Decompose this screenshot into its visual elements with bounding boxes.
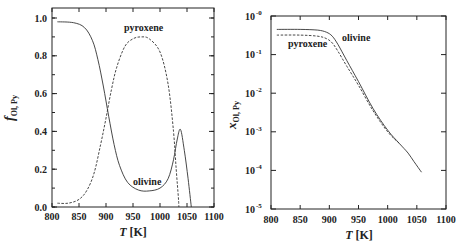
x-tick-label: 800 (264, 214, 279, 225)
x-tick-label: 1100 (436, 214, 455, 225)
x-tick-label: 1100 (204, 211, 223, 222)
right-olivine-label: olivine (342, 32, 371, 43)
olivine-line (57, 22, 191, 207)
right-series (277, 29, 422, 172)
x-tick-label: 950 (126, 211, 141, 222)
right-chart: 80085090095010001050110010-010-110-210-3… (224, 9, 456, 242)
left-y-axis-label: fOl, Py (2, 95, 19, 121)
right-x-axis-label: T [K] (345, 228, 373, 242)
y-tick-label: 10 (245, 88, 255, 99)
left-olivine-label: olivine (133, 176, 162, 187)
y-tick-label: 10 (245, 165, 255, 176)
y-tick-label: 0.0 (35, 202, 48, 213)
figure: 8008509009501000105011000.00.20.40.60.81… (0, 0, 464, 248)
y-tick-label: 1.0 (35, 13, 48, 24)
y-tick-label: 0.6 (35, 88, 48, 99)
y-tick-exponent: -1 (256, 48, 262, 56)
x-tick-label: 950 (351, 214, 366, 225)
pyroxene-line (277, 35, 400, 143)
y-tick-exponent: -3 (256, 125, 262, 133)
y-tick-exponent: -0 (256, 9, 262, 17)
right-y-axis-label: xOl, Py (224, 101, 241, 130)
x-tick-label: 1050 (407, 214, 427, 225)
x-tick-label: 850 (72, 211, 87, 222)
left-x-axis-label: T [K] (119, 225, 147, 239)
y-tick-label: 10 (245, 49, 255, 60)
y-tick-label: 0.8 (35, 50, 48, 61)
x-tick-label: 850 (293, 214, 308, 225)
x-tick-label: 900 (322, 214, 337, 225)
y-tick-label: 10 (245, 204, 255, 215)
x-tick-label: 800 (45, 211, 60, 222)
left-chart: 8008509009501000105011000.00.20.40.60.81… (2, 8, 224, 239)
y-tick-label: 10 (245, 11, 255, 22)
y-tick-label: 0.2 (35, 164, 48, 175)
y-tick-label: 10 (245, 126, 255, 137)
x-tick-label: 900 (99, 211, 114, 222)
x-tick-label: 1000 (378, 214, 398, 225)
y-tick-exponent: -2 (256, 86, 262, 94)
left-series (57, 22, 191, 207)
y-tick-exponent: -4 (256, 163, 262, 171)
x-tick-label: 1000 (150, 211, 170, 222)
left-pyroxene-label: pyroxene (124, 22, 164, 33)
x-tick-label: 1050 (177, 211, 197, 222)
y-tick-label: 0.4 (35, 126, 48, 137)
y-tick-exponent: -5 (256, 202, 262, 210)
left-axis-ticks: 8008509009501000105011000.00.20.40.60.81… (35, 8, 224, 222)
right-pyroxene-label: pyroxene (288, 38, 328, 49)
olivine-line (277, 29, 422, 172)
